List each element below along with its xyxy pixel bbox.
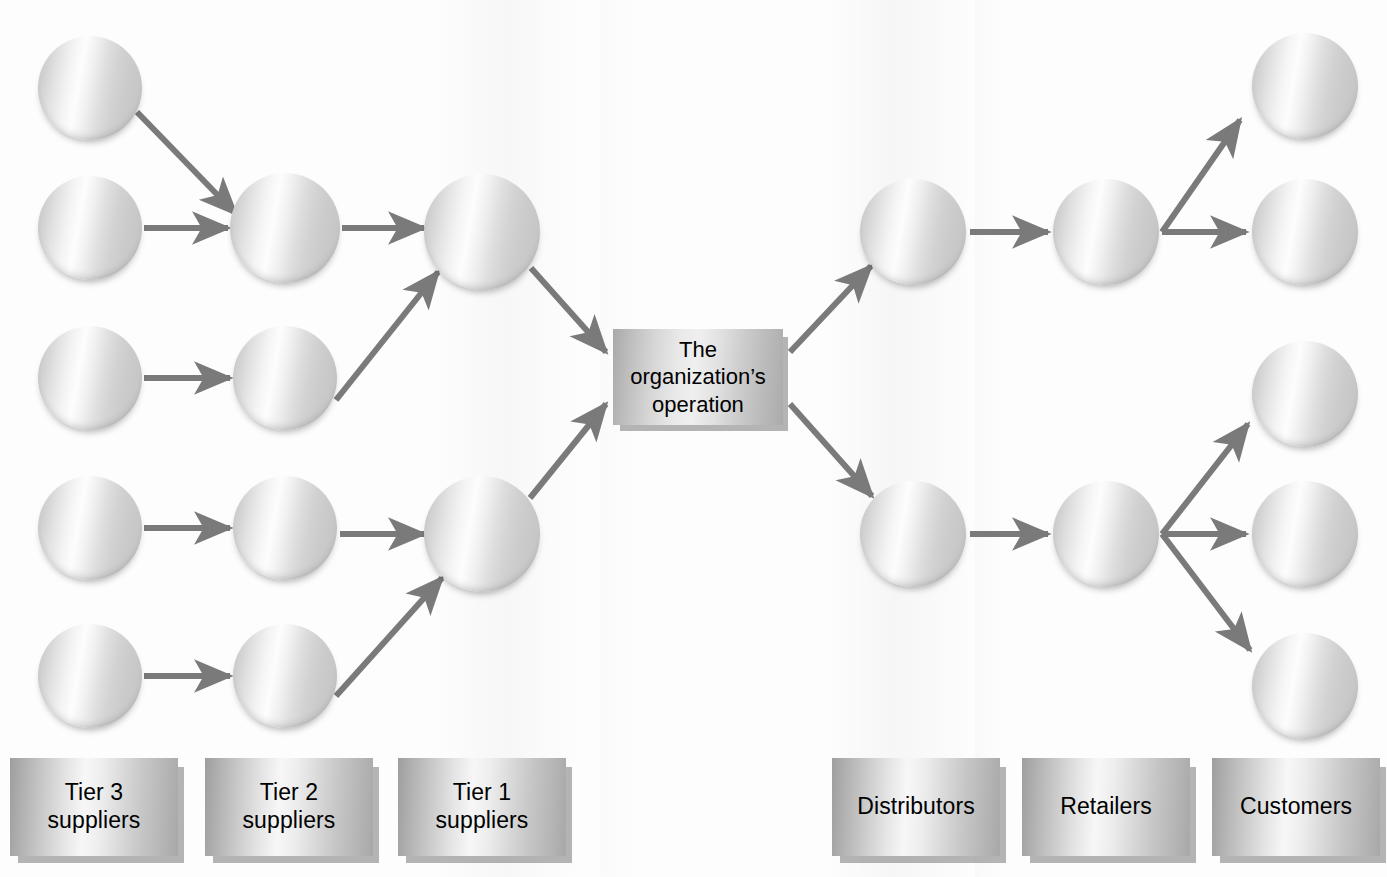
tier-label-line-1: Customers — [1240, 793, 1352, 821]
node-ds-1[interactable] — [860, 179, 966, 285]
organization-operation-label: The organization’s operation — [630, 336, 765, 418]
node-t2-2[interactable] — [233, 326, 337, 430]
tier-label-tier1-suppliers[interactable]: Tier 1suppliers — [398, 758, 566, 856]
flow-arrow-e10 — [531, 268, 606, 352]
node-t3-5[interactable] — [38, 624, 142, 728]
node-t3-4[interactable] — [38, 476, 142, 580]
tier-label-line-1: Tier 1 — [436, 779, 529, 807]
tier-label-distributors[interactable]: Distributors — [832, 758, 1000, 856]
node-t1-1[interactable] — [424, 174, 540, 290]
tier-label-line-1: Tier 2 — [243, 779, 336, 807]
node-cu-5[interactable] — [1252, 633, 1358, 739]
tier-label-text: Customers — [1240, 793, 1352, 821]
supply-network-diagram: The organization’s operation Tier 3suppl… — [0, 0, 1387, 877]
flow-arrow-e20 — [1162, 534, 1250, 650]
tier-label-text: Tier 2suppliers — [243, 779, 336, 834]
node-t3-1[interactable] — [38, 36, 142, 140]
organization-operation-box[interactable]: The organization’s operation — [613, 329, 783, 425]
tier-label-line-2: suppliers — [48, 807, 141, 835]
tier-label-line-1: Distributors — [857, 793, 975, 821]
flow-arrow-e7 — [336, 272, 438, 400]
tier-label-tier3-suppliers[interactable]: Tier 3suppliers — [10, 758, 178, 856]
center-line-1: The — [630, 336, 765, 363]
tier-label-customers[interactable]: Customers — [1212, 758, 1380, 856]
tier-label-text: Retailers — [1060, 793, 1152, 821]
flow-arrow-e12 — [790, 266, 871, 352]
center-line-2: organization’s — [630, 363, 765, 390]
node-t3-2[interactable] — [38, 176, 142, 280]
node-rt-1[interactable] — [1053, 179, 1159, 285]
node-cu-4[interactable] — [1252, 481, 1358, 587]
node-cu-3[interactable] — [1252, 341, 1358, 447]
flow-arrow-e1 — [137, 112, 236, 214]
node-cu-1[interactable] — [1252, 33, 1358, 139]
node-cu-2[interactable] — [1252, 179, 1358, 285]
node-t2-3[interactable] — [233, 476, 337, 580]
tier-label-line-2: suppliers — [436, 807, 529, 835]
tier-label-text: Tier 3suppliers — [48, 779, 141, 834]
node-t1-2[interactable] — [424, 476, 540, 592]
tier-label-text: Tier 1suppliers — [436, 779, 529, 834]
flow-arrow-e13 — [790, 404, 872, 496]
node-rt-2[interactable] — [1053, 481, 1159, 587]
edge-layer — [0, 0, 1387, 877]
tier-label-retailers[interactable]: Retailers — [1022, 758, 1190, 856]
center-line-3: operation — [630, 391, 765, 418]
tier-label-tier2-suppliers[interactable]: Tier 2suppliers — [205, 758, 373, 856]
flow-arrow-e18 — [1162, 424, 1248, 534]
tier-label-line-2: suppliers — [243, 807, 336, 835]
tier-label-text: Distributors — [857, 793, 975, 821]
node-t2-1[interactable] — [230, 173, 340, 283]
tier-label-line-1: Tier 3 — [48, 779, 141, 807]
flow-arrow-e16 — [1162, 120, 1240, 232]
node-t3-3[interactable] — [38, 326, 142, 430]
node-ds-2[interactable] — [860, 481, 966, 587]
node-t2-4[interactable] — [233, 624, 337, 728]
tier-label-line-1: Retailers — [1060, 793, 1152, 821]
flow-arrow-e9 — [336, 578, 442, 696]
flow-arrow-e11 — [530, 404, 606, 498]
